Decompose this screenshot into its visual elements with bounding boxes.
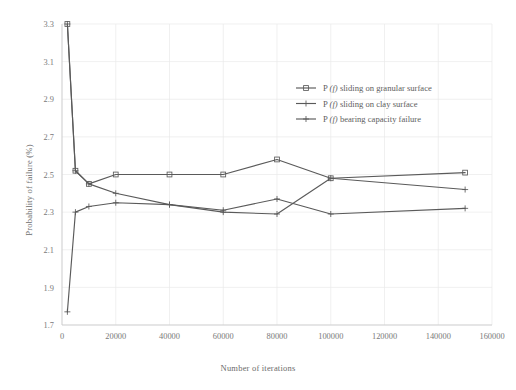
legend-item: P (f) sliding on clay surface [296, 99, 418, 109]
y-tick-label: 1.7 [44, 321, 54, 330]
x-tick-label: 140000 [426, 332, 451, 341]
x-tick-label: 160000 [479, 332, 504, 341]
legend: P (f) sliding on granular surfaceP (f) s… [296, 83, 432, 124]
legend-item: P (f) sliding on granular surface [296, 83, 432, 93]
legend-label-prefix: P [323, 99, 330, 109]
x-tick-label: 0 [60, 332, 64, 341]
legend-label-prefix: P [323, 83, 330, 93]
legend-label-prefix: P [323, 114, 330, 124]
legend-item: P (f) bearing capacity failure [296, 114, 421, 124]
legend-label-symbol: (f) [330, 99, 338, 109]
y-tick-label: 3.1 [44, 58, 54, 67]
legend-label: P (f) sliding on clay surface [323, 99, 418, 109]
legend-label-text: sliding on granular surface [338, 83, 432, 93]
legend-label-text: bearing capacity failure [338, 114, 421, 124]
legend-label-symbol: (f) [330, 114, 338, 124]
chart-figure: 0200004000060000800001000001200001400001… [0, 0, 516, 390]
y-tick-label: 1.9 [44, 284, 54, 293]
x-tick-label: 80000 [267, 332, 288, 341]
x-axis-title: Number of iterations [0, 363, 516, 373]
legend-label-symbol: (f) [330, 83, 338, 93]
y-tick-label: 2.5 [44, 171, 54, 180]
x-tick-label: 20000 [105, 332, 126, 341]
x-tick-labels: 0200004000060000800001000001200001400001… [60, 332, 505, 341]
y-tick-label: 2.9 [44, 95, 54, 104]
legend-label-text: sliding on clay surface [338, 99, 418, 109]
legend-label: P (f) sliding on granular surface [323, 83, 432, 93]
x-tick-label: 40000 [159, 332, 180, 341]
y-tick-label: 2.7 [44, 133, 54, 142]
series-line [67, 199, 465, 312]
y-tick-label: 2.3 [44, 208, 54, 217]
legend-label: P (f) bearing capacity failure [323, 114, 421, 124]
y-tick-label: 3.3 [44, 20, 54, 29]
x-tick-label: 120000 [372, 332, 397, 341]
y-axis-title: Probability of failure (%) [24, 90, 34, 290]
line-chart-canvas: 0200004000060000800001000001200001400001… [0, 0, 516, 390]
x-tick-label: 100000 [318, 332, 343, 341]
x-tick-label: 60000 [213, 332, 234, 341]
y-tick-labels: 1.71.92.12.32.52.72.93.13.3 [44, 20, 54, 330]
y-tick-label: 2.1 [44, 246, 54, 255]
